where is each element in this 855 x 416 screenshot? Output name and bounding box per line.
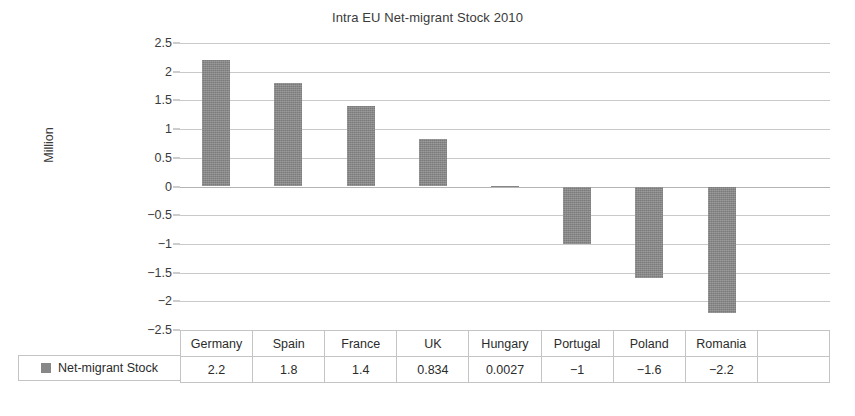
y-axis-tick-mark (173, 129, 180, 130)
table-value-cell: 0.0027 (469, 357, 541, 383)
y-axis-tick-label: 2.5 (120, 36, 172, 50)
gridline (180, 43, 830, 44)
y-axis-tick-label: −2 (120, 294, 172, 308)
bar[interactable] (202, 60, 230, 186)
table-header-cell: Hungary (469, 331, 541, 357)
bar[interactable] (419, 139, 447, 187)
table-value-cell: −1 (541, 357, 613, 383)
table-header-cell: Romania (685, 331, 757, 357)
table-header-cell: Poland (613, 331, 685, 357)
y-axis-tick-mark (173, 272, 180, 273)
table-value-cell: −1.6 (613, 357, 685, 383)
y-axis-tick-mark (173, 186, 180, 187)
y-axis-tick-label: 0.5 (120, 151, 172, 165)
table-header-cell: France (325, 331, 397, 357)
bar[interactable] (635, 187, 663, 279)
table-header-cell: Spain (253, 331, 325, 357)
chart-title: Intra EU Net-migrant Stock 2010 (0, 10, 855, 25)
table-header-cell: Portugal (541, 331, 613, 357)
legend-label: Net-migrant Stock (58, 361, 158, 375)
table-value-cell-empty (757, 357, 829, 383)
square-marker-icon (41, 363, 51, 373)
y-axis-tick-mark (173, 301, 180, 302)
y-axis-tick-labels: 2.521.510.50−0.5−1−1.5−2−2.5 (120, 43, 172, 330)
table-header-cell: Germany (181, 331, 253, 357)
y-axis-tick-label: 1.5 (120, 93, 172, 107)
table-value-cell: 0.834 (397, 357, 469, 383)
table-value-cell: 2.2 (181, 357, 253, 383)
y-axis-tick-label: 0 (120, 180, 172, 194)
y-axis-tick-label: −1.5 (120, 266, 172, 280)
table-header-cell: UK (397, 331, 469, 357)
table-header-row: GermanySpainFranceUKHungaryPortugalPolan… (181, 331, 830, 357)
legend[interactable]: Net-migrant Stock (18, 355, 180, 381)
bar[interactable] (347, 106, 375, 186)
y-axis-tick-mark (173, 43, 180, 44)
plot-area (180, 43, 830, 330)
data-table: GermanySpainFranceUKHungaryPortugalPolan… (180, 330, 830, 383)
y-axis-tick-label: −2.5 (120, 323, 172, 337)
y-axis-tick-mark (173, 157, 180, 158)
bar[interactable] (274, 83, 302, 186)
y-axis-tick-mark (173, 100, 180, 101)
gridline (180, 72, 830, 73)
table-value-cell: 1.4 (325, 357, 397, 383)
y-axis-tick-label: 2 (120, 65, 172, 79)
bar[interactable] (563, 187, 591, 244)
y-axis-tick-mark (173, 215, 180, 216)
y-axis-tick-mark (173, 243, 180, 244)
table-header-cell-empty (757, 331, 829, 357)
bar[interactable] (708, 187, 736, 313)
y-axis-tick-mark (173, 330, 180, 331)
y-axis-tick-mark (173, 71, 180, 72)
y-axis-tick-label: −1 (120, 237, 172, 251)
chart-figure: Intra EU Net-migrant Stock 2010 Million … (0, 0, 855, 416)
y-axis-tick-label: 1 (120, 122, 172, 136)
table-value-cell: 1.8 (253, 357, 325, 383)
table-value-cell: −2.2 (685, 357, 757, 383)
y-axis-tick-label: −0.5 (120, 208, 172, 222)
y-axis-title: Million (42, 85, 56, 205)
table-value-row: 2.21.81.40.8340.0027−1−1.6−2.2 (181, 357, 830, 383)
